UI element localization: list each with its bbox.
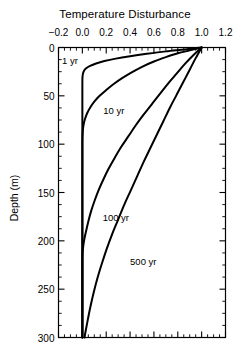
series-label-1-yr: 1 yr bbox=[62, 55, 78, 66]
curve-100-yr bbox=[82, 48, 201, 338]
series-label-500-yr: 500 yr bbox=[130, 256, 156, 267]
series-label-10-yr: 10 yr bbox=[103, 105, 124, 116]
axis-ticks bbox=[59, 48, 226, 338]
curve-10-yr bbox=[82, 48, 201, 338]
chart-figure: Temperature Disturbance −0.20.00.20.40.6… bbox=[0, 0, 250, 356]
series-label-100-yr: 100 yr bbox=[103, 212, 129, 223]
curve-500-yr bbox=[85, 48, 202, 338]
plot-area bbox=[0, 0, 250, 356]
curve-1-yr bbox=[82, 48, 201, 338]
plot-frame bbox=[59, 48, 226, 338]
